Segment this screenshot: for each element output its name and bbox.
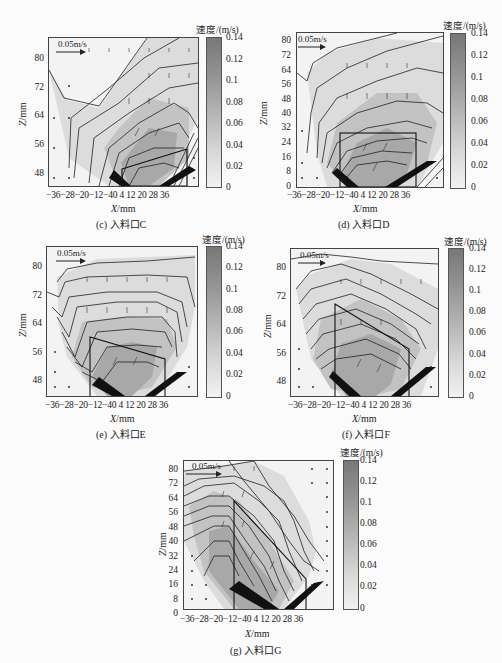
y-tick: 56 (22, 347, 42, 357)
y-tick: 72 (24, 82, 44, 92)
colorbar-tick: 0.04 (360, 560, 377, 570)
reference-vector-label: 0.05m/s (57, 248, 86, 258)
y-tick: 48 (22, 375, 42, 385)
colorbar-f (448, 248, 464, 398)
contour-plot-e (46, 246, 198, 397)
colorbar-tick: 0 (226, 182, 231, 192)
colorbar-tick: 0.02 (471, 160, 488, 170)
reference-vector-label: 0.05m/s (58, 39, 87, 49)
colorbar-tick: 0.14 (226, 241, 243, 251)
y-tick: 56 (271, 79, 291, 89)
colorbar-e (206, 246, 222, 398)
colorbar-tick: 0.06 (471, 116, 488, 126)
y-tick: 48 (271, 94, 291, 104)
colorbar-d (450, 33, 466, 189)
y-tick: 80 (24, 53, 44, 63)
caption-e: (e) 入料口E (96, 426, 146, 441)
caption-c: (c) 入料口C (96, 216, 146, 231)
colorbar-tick: 0.1 (360, 497, 372, 507)
colorbar-tick: 0.08 (226, 97, 243, 107)
colorbar-tick: 0.02 (226, 369, 243, 379)
y-tick: 56 (266, 348, 286, 358)
caption-d: (d) 入料口D (338, 216, 389, 231)
reference-arrow-icon (298, 260, 326, 266)
y-tick: 8 (158, 594, 178, 604)
y-tick: 48 (266, 376, 286, 386)
colorbar-tick: 0.02 (226, 161, 243, 171)
colorbar-tick: 0.14 (471, 28, 488, 38)
contour-plot-g (183, 460, 334, 610)
colorbar-tick: 0 (471, 182, 476, 192)
colorbar-tick: 0.04 (226, 140, 243, 150)
reference-arrow-icon (56, 49, 86, 55)
x-axis-label: X/mm (352, 413, 376, 424)
colorbar-tick: 0 (360, 603, 365, 613)
y-tick: 48 (158, 522, 178, 532)
y-tick: 8 (271, 166, 291, 176)
colorbar-tick: 0.06 (226, 118, 243, 128)
colorbar-tick: 0.14 (226, 32, 243, 42)
colorbar-tick: 0.08 (360, 518, 377, 528)
y-tick: 72 (22, 290, 42, 300)
y-tick: 16 (158, 579, 178, 589)
y-tick: 72 (271, 50, 291, 60)
y-axis-label: Z/mm (17, 313, 28, 337)
colorbar-tick: 0.1 (469, 285, 481, 295)
colorbar-tick: 0.12 (226, 262, 243, 272)
y-tick: 80 (22, 261, 42, 271)
colorbar-tick: 0.1 (226, 284, 238, 294)
y-tick: 80 (266, 262, 286, 272)
reference-vector-label: 0.05m/s (192, 461, 221, 471)
caption-g: (g) 入料口G (230, 642, 281, 657)
colorbar-tick: 0.12 (360, 476, 377, 486)
y-tick: 40 (271, 108, 291, 118)
y-tick: 64 (271, 65, 291, 75)
colorbar-tick: 0.12 (226, 54, 243, 64)
y-tick: 48 (24, 168, 44, 178)
y-tick: 72 (158, 478, 178, 488)
colorbar-tick: 0.04 (471, 138, 488, 148)
y-axis-label: Z/mm (157, 532, 168, 556)
y-tick: 56 (24, 139, 44, 149)
colorbar-tick: 0.1 (226, 75, 238, 85)
contour-plot-d (296, 32, 444, 188)
y-tick: 24 (158, 565, 178, 575)
x-ticks: −36−28−20−12−40 4 12 20 28 36 (288, 400, 411, 410)
colorbar-tick: 0.14 (360, 455, 377, 465)
reference-vector-label: 0.05m/s (300, 250, 329, 260)
reference-vector-label: 0.05m/s (298, 34, 327, 44)
y-axis-label: Z/mm (262, 314, 273, 338)
colorbar-tick: 0.02 (469, 370, 486, 380)
colorbar-tick: 0.12 (469, 264, 486, 274)
colorbar-tick: 0.06 (360, 539, 377, 549)
reference-arrow-icon (186, 471, 222, 477)
colorbar-tick: 0.06 (226, 326, 243, 336)
colorbar-tick: 0.06 (469, 327, 486, 337)
colorbar-tick: 0.12 (471, 50, 488, 60)
y-tick: 64 (158, 493, 178, 503)
colorbar-g (343, 460, 359, 610)
x-ticks: −36−28−20−12−40 4 12 20 28 36 (287, 190, 410, 200)
y-axis-label: Z/mm (17, 102, 28, 126)
y-axis-label: Z/mm (258, 101, 269, 125)
colorbar-tick: 0 (469, 391, 474, 401)
contour-plot-f (290, 248, 439, 397)
y-tick: 56 (158, 507, 178, 517)
x-ticks: −36−28−20−12−40 4 12 20 28 36 (45, 400, 168, 410)
colorbar-tick: 0 (226, 391, 231, 401)
y-tick: 72 (266, 291, 286, 301)
y-tick: 16 (271, 152, 291, 162)
y-tick: 0 (158, 608, 178, 618)
x-axis-label: X/mm (110, 413, 134, 424)
x-axis-label: X/mm (245, 628, 269, 639)
colorbar-tick: 0.08 (226, 305, 243, 315)
colorbar-tick: 0.08 (471, 94, 488, 104)
colorbar-tick: 0.04 (469, 349, 486, 359)
colorbar-c (206, 37, 222, 188)
x-ticks: −36−28−20−12−40 4 12 20 28 36 (46, 190, 169, 200)
y-tick: 24 (271, 137, 291, 147)
colorbar-tick: 0.14 (469, 243, 486, 253)
colorbar-tick: 0.04 (226, 348, 243, 358)
x-ticks: −36−28−20−12−40 4 12 20 28 36 (180, 614, 303, 624)
y-tick: 80 (158, 464, 178, 474)
